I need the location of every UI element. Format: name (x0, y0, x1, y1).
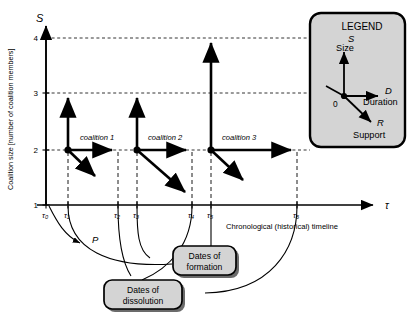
legend-support-name: Support (353, 130, 386, 140)
legend-duration-symbol: D (385, 85, 392, 96)
formation-callout-line1: Dates of (188, 251, 221, 261)
coalition-1-group: coalition 1 (64, 98, 114, 176)
y-axis-title: Coalition size [number of coalition memb… (6, 49, 15, 190)
coalition-1-support-arrow (68, 150, 95, 176)
coalition-1-label: coalition 1 (80, 133, 114, 142)
legend-origin-node (341, 93, 347, 99)
coalition-2-support-arrow (137, 150, 185, 192)
x-axis-symbol: τ (385, 200, 390, 211)
dissolution-callout-line2: dissolution (123, 296, 164, 306)
xtick-label-t2: τ₂ (114, 211, 120, 220)
p-label: P (92, 234, 99, 245)
ytick-label-4: 4 (34, 34, 39, 43)
legend-size-name: Size (336, 43, 354, 53)
x-axis-caption: Chronological (historical) timeline (226, 222, 338, 231)
coalition-3-group: coalition 3 (207, 43, 291, 180)
figure-canvas: Coalition size [number of coalition memb… (0, 0, 413, 324)
coalition-2-group: coalition 2 (133, 98, 186, 192)
coalition-3-label: coalition 3 (222, 133, 257, 142)
legend-origin-label: 0 (333, 99, 338, 109)
dates-of-formation-callout[interactable]: Dates of formation (173, 246, 239, 278)
leader-formation-t1 (68, 206, 172, 265)
legend-box (310, 13, 405, 147)
legend-support-symbol: R (377, 117, 384, 128)
legend-panel: LEGEND 0 S Size D Duration R Support (310, 13, 405, 147)
xtick-label-t3: τ₃ (133, 211, 139, 220)
legend-title: LEGEND (341, 21, 382, 32)
leader-dissolution-t2 (118, 206, 131, 276)
legend-duration-name: Duration (363, 97, 398, 107)
formation-callout-line2: formation (187, 262, 223, 272)
y-axis-symbol: S (36, 12, 44, 24)
coalition-2-label: coalition 2 (148, 133, 183, 142)
xtick-label-t0: τ₀ (42, 211, 49, 220)
coalition-3-node (207, 146, 214, 153)
dissolution-callout-line1: Dates of (127, 285, 160, 295)
dates-of-dissolution-callout[interactable]: Dates of dissolution (104, 280, 185, 312)
ytick-label-2: 2 (34, 146, 39, 155)
coalition-1-node (64, 146, 71, 153)
coalition-3-support-arrow (211, 150, 243, 180)
ytick-label-3: 3 (34, 89, 39, 98)
coalition-2-node (133, 146, 140, 153)
coalition-timeline-diagram: Coalition size [number of coalition memb… (0, 0, 413, 324)
